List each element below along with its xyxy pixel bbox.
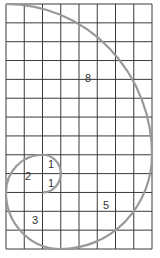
square-label-2: 2 [25,170,31,182]
square-label-5: 5 [103,199,109,211]
square-label-1-upper: 1 [48,158,54,170]
square-label-3: 3 [32,214,38,226]
square-label-1-lower: 1 [48,177,54,189]
fibonacci-diagram: 8 5 3 2 1 1 [0,0,160,258]
grid [6,4,152,249]
square-label-8: 8 [85,72,91,84]
square-labels: 8 5 3 2 1 1 [25,72,109,226]
